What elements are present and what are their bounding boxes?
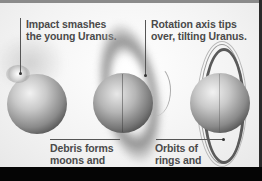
debris-leader-line [50, 139, 120, 140]
impact-leader-dot [19, 72, 22, 75]
right-border [259, 0, 262, 181]
axis-caption: Rotation axis tips over, tilting Uranus. [151, 19, 259, 42]
tilted-uranus-sphere [190, 73, 250, 133]
young-uranus-sphere [7, 74, 67, 134]
debris-caption: Debris forms moons and rings. [50, 143, 120, 167]
axis-leader-line [145, 20, 146, 76]
orbits-leader-dot [222, 138, 225, 141]
bottom-border [0, 167, 262, 181]
debris-band-line [122, 74, 123, 132]
tilted-uranus-band [219, 74, 220, 132]
illustration-panel: Impact smashes the young Uranus. Debris … [0, 3, 259, 167]
impactor-icon [6, 65, 30, 83]
axis-leader-dot [144, 74, 147, 77]
orbits-leader-line [156, 139, 223, 140]
orbits-caption: Orbits of rings and moons also tilt. [155, 143, 255, 167]
impact-leader-line [20, 18, 21, 73]
